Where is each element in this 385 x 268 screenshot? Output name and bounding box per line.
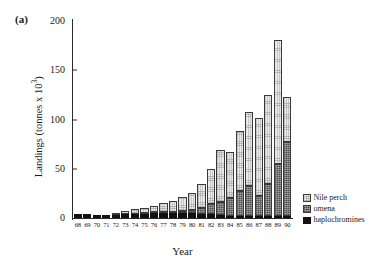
bar-86 <box>245 112 253 218</box>
bar-segment-haplochromines <box>131 214 139 218</box>
y-axis-tick-label: 0 <box>13 213 73 223</box>
y-axis-title-close: ) <box>33 76 44 80</box>
bar-87 <box>255 118 263 218</box>
bar-segment-haplochromines <box>216 215 224 218</box>
legend-swatch-omena-icon <box>303 205 311 213</box>
bar-segment-nile-perch <box>264 95 272 184</box>
bar-segment-omena <box>188 210 196 213</box>
bar-81 <box>197 184 205 218</box>
legend-item-nile-perch: Nile perch <box>303 194 365 202</box>
bar-segment-haplochromines <box>112 215 120 218</box>
bar-73 <box>121 211 129 218</box>
bar-76 <box>150 206 158 218</box>
x-axis-line <box>72 218 293 219</box>
bar-segment-nile-perch <box>236 131 244 191</box>
legend-swatch-nile-perch-icon <box>303 194 311 202</box>
bar-segment-haplochromines <box>255 216 263 218</box>
bar-segment-haplochromines <box>150 213 158 218</box>
legend-item-omena: omena <box>303 205 365 213</box>
bar-segment-haplochromines <box>140 214 148 218</box>
legend-label-nile-perch: Nile perch <box>314 194 348 202</box>
x-axis-title: Year <box>73 245 292 257</box>
y-axis-tick-mark <box>73 119 77 120</box>
bar-82 <box>207 169 215 218</box>
bar-segment-haplochromines <box>245 216 253 218</box>
bar-segment-haplochromines <box>102 215 110 218</box>
x-axis-tick-label: 90 <box>280 222 294 229</box>
bar-segment-nile-perch <box>255 118 263 197</box>
bar-segment-nile-perch <box>226 152 234 198</box>
bar-segment-nile-perch <box>150 206 158 212</box>
legend-label-omena: omena <box>314 205 335 213</box>
legend-swatch-haplochromines-icon <box>303 217 311 225</box>
bar-79 <box>178 197 186 218</box>
plot-area: 050100150200 <box>73 21 292 218</box>
y-axis-tick-label: 50 <box>13 164 73 174</box>
bar-segment-omena <box>264 184 272 217</box>
y-axis-title-exponent: 3 <box>30 80 39 84</box>
bar-segment-haplochromines <box>169 213 177 218</box>
bar-segment-omena <box>216 202 224 215</box>
bar-segment-omena <box>245 186 253 216</box>
y-axis-tick-label: 150 <box>13 65 73 75</box>
bar-segment-haplochromines <box>226 216 234 218</box>
bar-segment-omena <box>274 164 282 216</box>
bar-segment-haplochromines <box>236 216 244 218</box>
bar-70 <box>93 215 101 218</box>
bar-segment-nile-perch <box>131 209 139 214</box>
y-axis-tick-label: 200 <box>13 16 73 26</box>
bar-segment-haplochromines <box>188 213 196 218</box>
bar-88 <box>264 95 272 218</box>
bar-89 <box>274 40 282 218</box>
bar-segment-haplochromines <box>159 213 167 218</box>
y-axis-tick-label: 100 <box>13 115 73 125</box>
bar-segment-omena <box>178 211 186 213</box>
bar-segment-omena <box>197 208 205 214</box>
bar-segment-nile-perch <box>112 213 120 215</box>
bar-segment-haplochromines <box>178 213 186 218</box>
bar-75 <box>140 208 148 218</box>
bar-segment-nile-perch <box>283 97 291 142</box>
bar-segment-nile-perch <box>140 208 148 213</box>
legend-item-haplochromines: haplochromines <box>303 216 365 224</box>
legend-label-haplochromines: haplochromines <box>314 216 365 224</box>
y-axis-tick-mark <box>73 168 77 169</box>
bar-segment-nile-perch <box>274 40 282 164</box>
bar-segment-haplochromines <box>264 216 272 218</box>
bar-segment-haplochromines <box>274 216 282 218</box>
bar-85 <box>236 131 244 218</box>
bar-segment-omena <box>207 204 215 214</box>
bar-segment-nile-perch <box>216 150 224 202</box>
bar-segment-haplochromines <box>207 214 215 218</box>
figure-panel-a: (a) Landings (tonnes x 103) 050100150200… <box>0 0 385 268</box>
bar-segment-haplochromines <box>83 214 91 218</box>
bar-segment-nile-perch <box>159 203 167 212</box>
bar-segment-haplochromines <box>197 214 205 218</box>
bar-71 <box>102 215 110 218</box>
bar-74 <box>131 209 139 218</box>
bar-90 <box>283 97 291 218</box>
bar-83 <box>216 150 224 218</box>
legend: Nile perch omena haplochromines <box>303 194 365 228</box>
bar-84 <box>226 152 234 218</box>
bar-segment-haplochromines <box>93 215 101 218</box>
bar-segment-nile-perch <box>197 184 205 209</box>
bar-segment-nile-perch <box>169 201 177 212</box>
bar-segment-haplochromines <box>283 216 291 218</box>
bar-segment-nile-perch <box>178 197 186 211</box>
bar-segment-haplochromines <box>74 214 82 218</box>
bar-80 <box>188 193 196 218</box>
bar-78 <box>169 201 177 218</box>
bar-69 <box>83 214 91 218</box>
bar-68 <box>74 214 82 218</box>
bar-segment-nile-perch <box>188 193 196 210</box>
bar-segment-haplochromines <box>121 214 129 218</box>
bar-segment-omena <box>236 191 244 216</box>
bar-segment-nile-perch <box>207 169 215 204</box>
bar-segment-omena <box>283 142 291 216</box>
bar-77 <box>159 203 167 218</box>
bar-segment-nile-perch <box>245 112 253 187</box>
bar-segment-omena <box>226 198 234 216</box>
bar-segment-nile-perch <box>121 211 129 214</box>
bar-72 <box>112 214 120 218</box>
